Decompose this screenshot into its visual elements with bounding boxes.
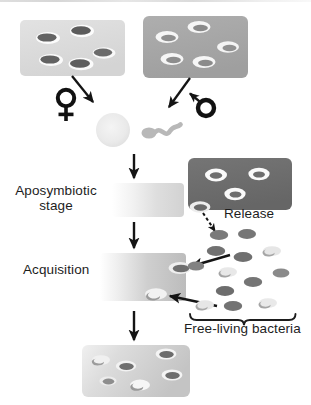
- release-arrow: [203, 213, 215, 231]
- sperm-cell: [142, 125, 181, 139]
- free-living-bacteria-label: Free-living bacteria: [184, 321, 301, 336]
- aposymbiotic-stage-label: Aposymbiotic stage: [6, 183, 106, 213]
- panel-paternal-tissue: [143, 16, 248, 78]
- male-symbol: [190, 94, 214, 117]
- aposymbiotic-label-line2: stage: [39, 198, 73, 213]
- acquisition-label: Acquisition: [23, 262, 89, 277]
- aposymbiotic-label-line1: Aposymbiotic: [15, 183, 96, 198]
- female-symbol: [58, 90, 74, 121]
- free-living-bacteria-field: [188, 229, 290, 311]
- bacteria-entering-upper: [169, 262, 192, 274]
- release-label: Release: [224, 206, 274, 221]
- panel-symbiotic-tissue: [82, 345, 190, 397]
- male-to-sperm-arrow: [169, 78, 190, 107]
- egg-cell: [96, 113, 130, 147]
- panel-dark-host-tissue: [188, 158, 292, 213]
- aposymbiotic-stage-block: [112, 183, 184, 217]
- panel-maternal-tissue: [20, 20, 125, 76]
- acquisition-stage-block: [100, 253, 186, 301]
